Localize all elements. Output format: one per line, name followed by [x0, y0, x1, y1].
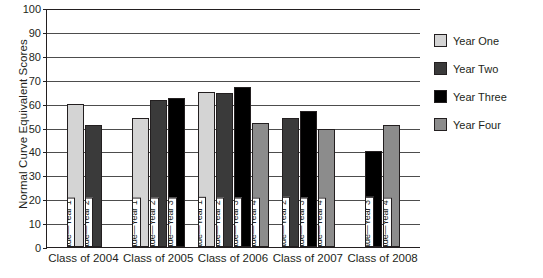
legend-label: Year One: [453, 35, 499, 47]
bar[interactable]: 5th grade—Year 4: [318, 129, 335, 247]
legend-swatch-icon: [434, 62, 447, 75]
bar-group: 3rd grade—Year 34th grade—Year 4: [345, 9, 420, 247]
bar[interactable]: 6th grade—Year 2: [85, 125, 102, 247]
legend-label: Year Two: [453, 63, 498, 75]
bar[interactable]: 6th grade—Year 3: [168, 98, 185, 247]
bar-label: 4th grade—Year 1: [132, 197, 141, 247]
bar-label: 4th grade—Year 3: [300, 197, 309, 247]
x-axis-label: Class of 2006: [196, 252, 271, 264]
bar-group: 4th grade—Year 15th grade—Year 26th grad…: [122, 9, 197, 247]
bar-label: 3rd grade—Year 2: [282, 197, 291, 247]
legend-swatch-icon: [434, 118, 447, 131]
legend-swatch-icon: [434, 34, 447, 47]
x-axis-labels: Class of 2004Class of 2005Class of 2006C…: [46, 252, 420, 264]
y-axis-tick-label: 70: [29, 75, 41, 87]
x-axis-label: Class of 2004: [46, 252, 121, 264]
y-axis-tick-label: 0: [35, 242, 41, 254]
bar-label: 3rd grade—Year 1: [198, 197, 207, 247]
bar-label: 4th grade—Year 2: [216, 197, 225, 247]
bar-groups: 5th grade—Year 16th grade—Year 24th grad…: [47, 9, 420, 247]
bar-label: 6th grade—Year 3: [168, 197, 177, 247]
y-axis-tick-label: 90: [29, 27, 41, 39]
bar[interactable]: 5th grade—Year 3: [234, 87, 251, 247]
x-axis-label: Class of 2005: [121, 252, 196, 264]
bar[interactable]: 4th grade—Year 2: [216, 93, 233, 247]
x-axis-label: Class of 2007: [270, 252, 345, 264]
bar[interactable]: 4th grade—Year 3: [300, 111, 317, 247]
y-axis-tick-label: 20: [29, 194, 41, 206]
legend-item[interactable]: Year Three: [434, 90, 539, 103]
legend-item[interactable]: Year Two: [434, 62, 539, 75]
bar[interactable]: 3rd grade—Year 2: [282, 118, 299, 247]
legend-item[interactable]: Year One: [434, 34, 539, 47]
y-axis-tick: [43, 248, 47, 249]
bar-group: 3rd grade—Year 24th grade—Year 35th grad…: [271, 9, 346, 247]
bar-group: 5th grade—Year 16th grade—Year 2: [47, 9, 122, 247]
bar-label: 5th grade—Year 2: [150, 197, 159, 247]
legend-item[interactable]: Year Four: [434, 118, 539, 131]
bar-label: 5th grade—Year 1: [67, 197, 76, 247]
y-axis-tick-label: 40: [29, 146, 41, 158]
bar[interactable]: 5th grade—Year 1: [67, 104, 84, 247]
legend-label: Year Three: [453, 91, 507, 103]
y-axis-tick-label: 30: [29, 170, 41, 182]
bar-label: 5th grade—Year 4: [318, 197, 327, 247]
legend: Year OneYear TwoYear ThreeYear Four: [434, 34, 539, 146]
bar[interactable]: 3rd grade—Year 3: [365, 151, 382, 247]
y-axis-tick-label: 10: [29, 218, 41, 230]
y-axis-tick-label: 100: [23, 3, 41, 15]
y-axis-title: Normal Curve Equivalent Scores: [17, 9, 29, 239]
bar-label: 5th grade—Year 3: [234, 197, 243, 247]
bar-label: 3rd grade—Year 3: [365, 197, 374, 247]
bar-group: 3rd grade—Year 14th grade—Year 25th grad…: [196, 9, 271, 247]
x-axis-label: Class of 2008: [345, 252, 420, 264]
bar-label: 4th grade—Year 4: [383, 197, 392, 247]
bar[interactable]: 4th grade—Year 1: [132, 118, 149, 247]
bar-label: 6th grade—Year 2: [85, 197, 94, 247]
y-axis-tick-label: 80: [29, 51, 41, 63]
y-axis-tick-label: 50: [29, 123, 41, 135]
y-axis-tick-label: 60: [29, 99, 41, 111]
bar[interactable]: 5th grade—Year 2: [150, 100, 167, 247]
legend-swatch-icon: [434, 90, 447, 103]
bar-label: 6th grade—Year 4: [252, 197, 261, 247]
bar[interactable]: 4th grade—Year 4: [383, 125, 400, 247]
plot-area: 0102030405060708090100 5th grade—Year 16…: [46, 9, 420, 248]
legend-label: Year Four: [453, 119, 501, 131]
bar-chart: Normal Curve Equivalent Scores 010203040…: [0, 0, 543, 278]
bar[interactable]: 3rd grade—Year 1: [198, 92, 215, 247]
bar[interactable]: 6th grade—Year 4: [252, 123, 269, 247]
